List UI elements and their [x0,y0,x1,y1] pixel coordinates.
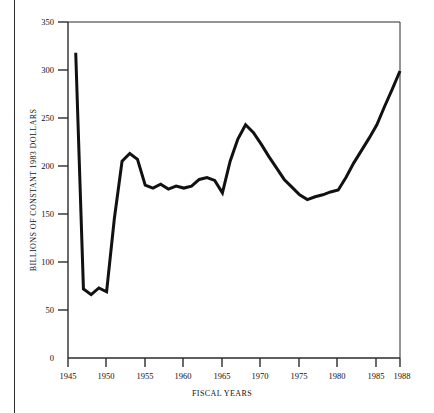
x-tick-label-1945: 1945 [60,371,77,381]
y-axis-title: BILLIONS OF CONSTANT 1983 DOLLARS [29,109,38,272]
x-axis-tick-labels: 1945 1950 1955 1960 1965 1970 1975 1980 … [60,371,411,381]
chart-svg: 350 300 250 200 150 100 50 0 [0,0,434,413]
line-chart: 350 300 250 200 150 100 50 0 [0,0,434,413]
y-tick-label-300: 300 [41,65,54,75]
x-tick-label-1985: 1985 [368,371,385,381]
y-tick-label-350: 350 [41,17,54,27]
x-tick-label-1970: 1970 [252,371,269,381]
x-tick-label-1975: 1975 [291,371,308,381]
x-tick-label-1965: 1965 [214,371,231,381]
y-axis-ticks [58,22,68,310]
x-tick-label-1955: 1955 [137,371,154,381]
y-tick-label-250: 250 [41,113,54,123]
y-axis-tick-labels: 350 300 250 200 150 100 50 0 [41,17,54,363]
x-axis-title: FISCAL YEARS [192,389,252,398]
data-series-line [76,53,400,295]
y-tick-label-200: 200 [41,161,54,171]
chart-figure: 350 300 250 200 150 100 50 0 [0,0,434,413]
y-tick-label-0: 0 [50,353,54,363]
x-tick-label-1980: 1980 [329,371,346,381]
x-axis-ticks [68,358,400,367]
y-tick-label-50: 50 [46,305,55,315]
y-tick-label-150: 150 [41,209,54,219]
x-tick-label-1988: 1988 [394,371,411,381]
x-tick-label-1950: 1950 [98,371,115,381]
x-tick-label-1960: 1960 [175,371,192,381]
y-tick-label-100: 100 [41,257,54,267]
